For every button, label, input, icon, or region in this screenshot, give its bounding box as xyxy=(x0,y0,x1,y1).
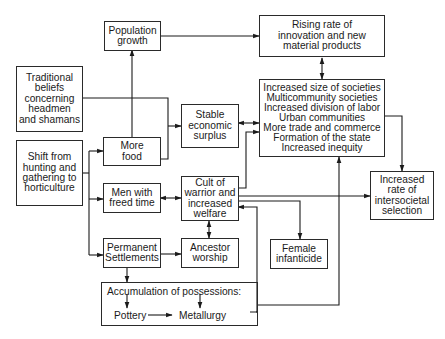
node-more-food: More food xyxy=(103,137,161,166)
node-text: worship xyxy=(192,253,227,263)
arrow-cult-to-societal xyxy=(238,132,259,188)
node-text: More xyxy=(120,141,143,151)
node-text: rate of xyxy=(388,185,417,195)
node-text: horticulture xyxy=(24,183,74,193)
node-ancestor-worship: Ancestor worship xyxy=(181,238,239,268)
node-female-infanticide: Female infanticide xyxy=(270,239,328,269)
node-societal-changes: Increased size of societies Multicommuni… xyxy=(259,79,385,157)
node-shift-horticulture: Shift from hunting and gathering to hort… xyxy=(16,140,83,206)
arrow-societal-to-intersocietal xyxy=(384,116,402,171)
node-text: infanticide xyxy=(276,254,322,264)
node-men-freed-time: Men with freed time xyxy=(103,183,161,213)
accumulation-title: Accumulation of possessions: xyxy=(107,287,241,297)
node-text: surplus xyxy=(194,131,227,141)
node-traditional-beliefs: Traditional beliefs concerning headmen a… xyxy=(16,66,83,132)
node-text: welfare xyxy=(194,209,227,219)
pottery-label: Pottery xyxy=(114,311,146,321)
node-text: Settlements xyxy=(105,253,159,263)
node-text: selection xyxy=(382,206,422,216)
node-intersocietal-selection: Increased rate of intersocietal selectio… xyxy=(370,171,434,220)
node-text: Increased inequity xyxy=(281,143,362,153)
node-accumulation: Accumulation of possessions: Pottery Met… xyxy=(101,282,258,326)
node-text: and shamans xyxy=(19,115,80,125)
arrow-accumulation-to-societal xyxy=(257,157,339,305)
node-rising-rate: Rising rate of innovation and new materi… xyxy=(259,15,385,57)
metallurgy-label: Metallurgy xyxy=(179,311,226,321)
node-stable-surplus: Stable economic surplus xyxy=(181,104,239,148)
node-text: freed time xyxy=(109,198,154,208)
node-text: food xyxy=(122,152,142,162)
node-population-growth: Population growth xyxy=(104,21,161,51)
node-cult-warrior: Cult of warrior and increased welfare xyxy=(181,176,239,221)
node-text: material products xyxy=(283,41,361,51)
node-text: growth xyxy=(117,36,148,46)
node-text: warrior and xyxy=(185,188,236,198)
node-permanent-settlements: Permanent Settlements xyxy=(103,238,161,268)
